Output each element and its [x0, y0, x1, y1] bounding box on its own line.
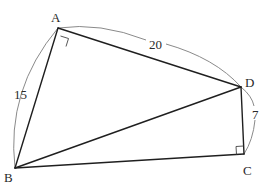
measurement-label-dc: 7 [252, 107, 259, 122]
measurement-label-ab: 15 [14, 87, 27, 102]
right-angle-marker-a [61, 36, 69, 47]
vertex-label-c: C [243, 163, 252, 178]
right-angle-marker-c [236, 146, 244, 155]
vertex-label-a: A [51, 10, 61, 25]
segment-dc [241, 87, 244, 154]
arc-dc-dimension-bottom [244, 120, 255, 154]
measurement-label-ad: 20 [149, 37, 162, 52]
quadrilateral-diagram: A D C B 15 20 7 [0, 0, 266, 183]
vertex-label-d: D [245, 75, 254, 90]
vertex-label-b: B [4, 170, 13, 183]
arc-ad-dimension-right [166, 44, 241, 87]
arc-ad-dimension-left [58, 27, 146, 41]
